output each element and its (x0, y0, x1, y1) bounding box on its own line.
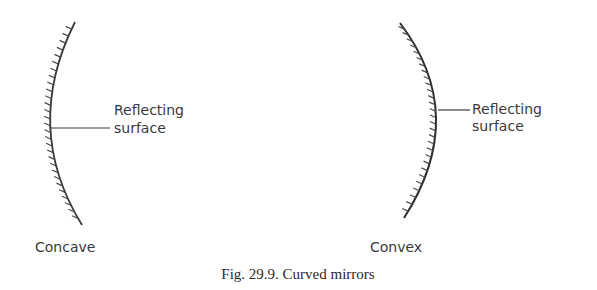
hatch-mark (62, 33, 68, 36)
hatch-mark (49, 75, 55, 78)
figure-caption: Fig. 29.9. Curved mirrors (221, 266, 374, 282)
hatch-mark (44, 109, 50, 112)
hatch-mark (47, 82, 53, 85)
curved-mirrors-diagram: Reflecting surface Concave Reflecting su… (0, 0, 597, 290)
concave-pointer-label-line1: Reflecting (114, 102, 184, 118)
convex-pointer-label-line2: surface (472, 118, 524, 134)
hatch-mark (60, 40, 66, 43)
hatch-mark (52, 61, 58, 64)
hatch-mark (46, 89, 52, 92)
hatch-mark (424, 161, 430, 164)
hatch-mark (50, 68, 56, 71)
hatch-mark (416, 181, 422, 184)
convex-hatch-marks (399, 26, 436, 211)
hatch-mark (45, 103, 51, 106)
convex-mirror: Reflecting surface Convex (370, 23, 542, 255)
hatch-mark (419, 175, 425, 178)
hatch-mark (44, 116, 50, 119)
hatch-mark (429, 135, 435, 138)
concave-mirror: Reflecting surface Concave (35, 22, 184, 255)
hatch-mark (413, 188, 419, 191)
concave-pointer-label-line2: surface (114, 120, 166, 136)
hatch-mark (428, 141, 434, 144)
hatch-mark (45, 96, 51, 99)
hatch-mark (402, 208, 408, 211)
hatch-mark (425, 154, 431, 157)
convex-mirror-arc (400, 23, 436, 218)
convex-pointer-label-line1: Reflecting (472, 101, 542, 117)
convex-label: Convex (370, 239, 422, 255)
concave-label: Concave (35, 239, 95, 255)
hatch-mark (54, 54, 60, 57)
hatch-mark (427, 148, 433, 151)
hatch-mark (57, 47, 63, 50)
hatch-mark (410, 195, 416, 198)
hatch-mark (66, 26, 72, 29)
hatch-mark (406, 202, 412, 205)
hatch-mark (421, 168, 427, 171)
concave-mirror-arc (50, 22, 82, 225)
